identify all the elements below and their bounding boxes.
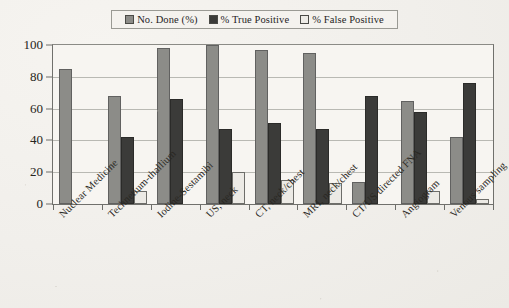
y-axis-tick-mark (46, 76, 52, 77)
x-axis-tick-mark (200, 205, 201, 210)
bar (476, 199, 489, 204)
bar (303, 53, 316, 204)
bar (59, 69, 72, 204)
y-axis-tick-label: 60 (30, 101, 43, 117)
y-axis-tick-label: 40 (30, 132, 43, 148)
y-axis-tick-mark (46, 108, 52, 109)
x-axis-tick-mark (151, 205, 152, 210)
x-axis-tick-mark (249, 205, 250, 210)
bars-layer (53, 45, 493, 204)
x-axis-tick-mark (395, 205, 396, 210)
bar (206, 45, 219, 204)
x-axis-tick-mark (493, 205, 494, 210)
bar (255, 50, 268, 204)
y-axis-tick-label: 100 (24, 37, 44, 53)
x-axis-tick-mark (53, 205, 54, 210)
bar (108, 96, 121, 204)
bar-group (206, 45, 249, 204)
y-axis-tick-mark (46, 45, 52, 46)
y-axis-tick-label: 20 (30, 164, 43, 180)
x-axis-labels: Nuclear MedicineTechnetium-thalliumIodin… (0, 205, 509, 308)
x-axis-tick-mark (297, 205, 298, 210)
x-axis-tick-mark (346, 205, 347, 210)
bar (157, 48, 170, 204)
y-axis-tick-label: 80 (30, 69, 43, 85)
x-axis-tick-mark (444, 205, 445, 210)
bar (450, 137, 463, 204)
bar-chart: 020406080100 Nuclear MedicineTechnetium-… (0, 0, 509, 308)
x-axis-tick-mark (102, 205, 103, 210)
y-axis-tick-mark (46, 172, 52, 173)
y-axis-tick-mark (46, 140, 52, 141)
